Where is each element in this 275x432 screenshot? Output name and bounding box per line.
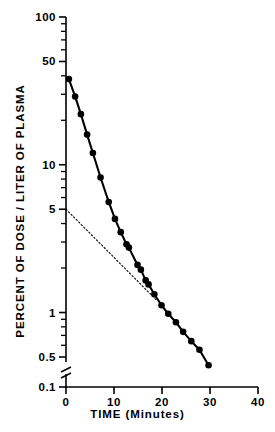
data-point-marker xyxy=(165,311,172,318)
y-axis-major-ticks xyxy=(59,17,66,387)
data-point-marker xyxy=(188,338,195,345)
x-tick-label: 20 xyxy=(155,396,169,408)
data-point-marker xyxy=(151,291,158,298)
data-point-marker xyxy=(117,229,124,236)
data-point-marker xyxy=(196,346,203,353)
data-point-marker xyxy=(112,216,119,223)
x-axis-ticks xyxy=(66,387,258,394)
data-point-marker xyxy=(90,150,97,157)
data-point-marker xyxy=(72,93,79,100)
figure-semilog-plasma-concentration: 1005010510.50.1 010203040 PERCENT OF DOS… xyxy=(0,0,275,432)
x-tick-label: 10 xyxy=(107,396,121,408)
y-axis-title: PERCENT OF DOSE / LITER OF PLASMA xyxy=(14,61,26,361)
y-tick-label: 0.1 xyxy=(18,381,56,393)
data-point-marker xyxy=(66,76,73,83)
y-tick-label: 100 xyxy=(18,11,56,23)
data-point-marker xyxy=(138,266,145,273)
data-point-marker xyxy=(180,329,187,336)
x-tick-label: 40 xyxy=(251,396,265,408)
axis-lines xyxy=(61,17,258,387)
data-point-marker xyxy=(78,111,85,118)
data-point-marker xyxy=(105,199,112,206)
series-concentration-curve xyxy=(69,79,209,365)
data-point-marker xyxy=(97,174,104,181)
data-point-marker xyxy=(205,362,212,369)
data-point-marker xyxy=(173,319,180,326)
data-point-marker xyxy=(158,302,165,309)
data-point-marker xyxy=(126,244,133,251)
x-tick-label: 0 xyxy=(63,396,70,408)
series-terminal-extrapolation-line xyxy=(66,209,157,301)
x-tick-label: 30 xyxy=(203,396,217,408)
x-axis-title: TIME (Minutes) xyxy=(0,408,275,420)
data-point-marker xyxy=(145,281,152,288)
series-data-point-markers xyxy=(66,76,212,369)
data-point-marker xyxy=(84,131,91,138)
